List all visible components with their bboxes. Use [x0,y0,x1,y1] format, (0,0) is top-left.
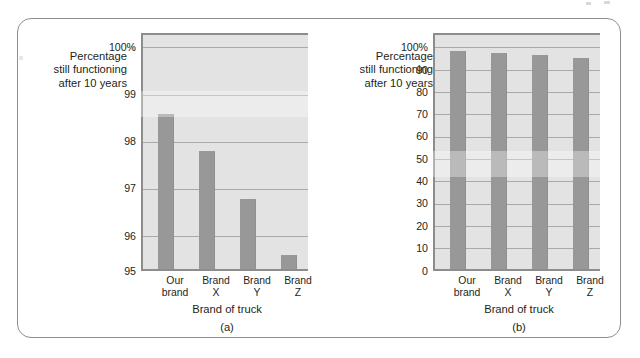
x-tick-line: Z [560,287,620,299]
y-tick-label: 90 [378,64,428,76]
x-tick-line: Brand [268,275,328,287]
x-tick-label-brand-z: Brand Z [268,275,328,298]
y-tick-label: 100% [86,41,136,53]
gridline-100 [433,47,600,48]
bar-brand-z [281,255,297,269]
x-axis-line-b [433,269,600,271]
y-tick-label: 95 [86,265,136,277]
y-tick-label: 60 [378,130,428,142]
y-axis-caption-line: still functioning [14,63,127,76]
y-axis-line-b [433,33,435,271]
x-axis-label-b: Brand of truck [436,303,602,315]
y-tick-label: 40 [378,175,428,187]
chart-panel-a: Percentage still functioning after 10 ye… [0,0,320,358]
x-axis-line-a [141,269,308,271]
y-tick-label: 99 [86,88,136,100]
y-tick-label: 70 [378,108,428,120]
gridline-100 [141,47,308,48]
plot-area-b [433,33,600,271]
x-axis-label-a: Brand of truck [144,303,310,315]
bar-our-brand [158,114,174,270]
y-tick-label: 10 [378,242,428,254]
y-tick-label: 20 [378,220,428,232]
plot-area-a [141,33,308,271]
bar-brand-x [491,53,507,270]
x-tick-line: Brand [560,275,620,287]
y-tick-label: 97 [86,182,136,194]
y-axis-caption-a: Percentage still functioning after 10 ye… [14,50,127,90]
bar-brand-z [573,58,589,270]
chart-panel-b: Percentage still functioning after 10 ye… [320,0,640,358]
y-tick-label: 96 [86,230,136,242]
y-tick-label: 100% [378,41,428,53]
panel-caption-b: (b) [436,321,602,333]
y-tick-label: 98 [86,135,136,147]
y-tick-label: 80 [378,86,428,98]
bar-our-brand [450,51,466,269]
x-tick-line: Z [268,287,328,299]
x-tick-label-brand-z: Brand Z [560,275,620,298]
gridline-99 [141,95,308,96]
y-axis-line-a [141,33,143,271]
plot-top-border [141,33,308,35]
y-tick-label: 0 [378,265,428,277]
bar-brand-y [532,55,548,269]
bar-brand-x [199,151,215,269]
panel-caption-a: (a) [144,321,310,333]
y-tick-label: 30 [378,197,428,209]
bar-brand-y [240,199,256,270]
y-tick-label: 50 [378,153,428,165]
plot-top-border [433,33,600,35]
